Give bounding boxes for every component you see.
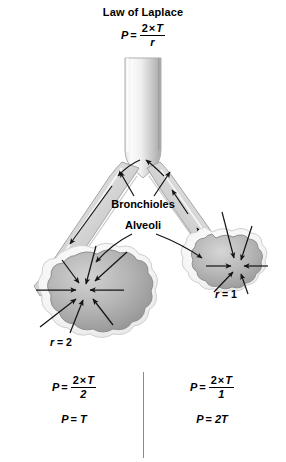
- radius-left-symbol: r: [50, 336, 54, 348]
- comparison-column-right: P = 2×T 1 P = 2T: [146, 372, 278, 425]
- comparison-divider: [143, 372, 144, 458]
- laplace-diagram-canvas: Law of Laplace P = 2×T r: [0, 0, 286, 462]
- radius-right-symbol: r: [215, 288, 219, 300]
- radius-label-left: r = 2: [50, 336, 72, 348]
- left-formula-denominator: 2: [78, 388, 88, 400]
- left-numerator-coefficient: 2: [73, 374, 79, 386]
- label-bronchioles: Bronchioles: [0, 198, 286, 210]
- right-numerator-coefficient: 2: [211, 374, 217, 386]
- right-result: P = 2T: [146, 414, 278, 425]
- right-formula-denominator: 1: [216, 388, 226, 400]
- left-numerator-tension: T: [87, 374, 94, 386]
- left-result: P = T: [8, 414, 140, 425]
- right-formula-equals: =: [199, 382, 205, 393]
- comparison-column-left: P = 2×T 2 P = T: [8, 372, 140, 425]
- right-result-equals: =: [206, 414, 212, 425]
- radius-left-equals: =: [57, 336, 63, 348]
- left-result-lhs: P: [61, 414, 68, 425]
- radius-right-value: 1: [231, 288, 237, 300]
- left-result-equals: =: [71, 414, 77, 425]
- right-formula-fraction: 2×T 1: [209, 375, 234, 400]
- right-formula-numerator: 2×T: [209, 375, 234, 387]
- right-result-value: 2T: [215, 414, 228, 425]
- left-formula-fraction: 2×T 2: [71, 375, 96, 400]
- right-numerator-tension: T: [225, 374, 232, 386]
- radius-right-equals: =: [222, 288, 228, 300]
- comparison-panel: P = 2×T 2 P = T: [0, 372, 286, 458]
- left-formula-equals: =: [61, 382, 67, 393]
- left-formula-numerator: 2×T: [71, 375, 96, 387]
- label-alveoli: Alveoli: [0, 219, 286, 231]
- left-result-value: T: [80, 414, 87, 425]
- alveolus-left: [36, 243, 157, 337]
- right-pressure-formula: P = 2×T 1: [146, 372, 278, 402]
- left-pressure-formula: P = 2×T 2: [8, 372, 140, 402]
- radius-left-value: 2: [66, 336, 72, 348]
- radius-label-right: r = 1: [215, 288, 237, 300]
- trachea-tube: [125, 58, 161, 178]
- right-result-lhs: P: [196, 414, 203, 425]
- left-formula-lhs: P: [52, 382, 59, 393]
- right-formula-lhs: P: [190, 382, 197, 393]
